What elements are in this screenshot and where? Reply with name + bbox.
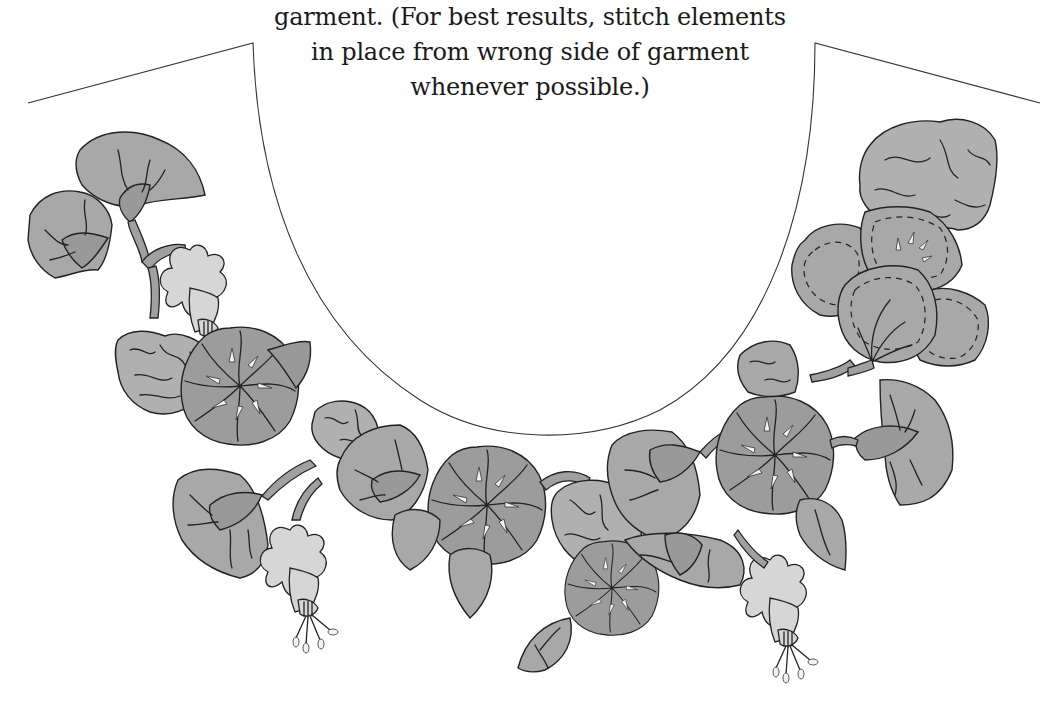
- fuchsia-bottom-left: [260, 525, 338, 653]
- neckline-applique-illustration: [0, 0, 1044, 708]
- morning-glory-right: [716, 396, 833, 514]
- fuchsia-bottom-right: [740, 555, 818, 683]
- morning-glory-center: [428, 446, 545, 564]
- leaf-center-left: [392, 510, 440, 570]
- leaf-cluster-top-right: [792, 119, 997, 376]
- morning-glory-left: [181, 327, 298, 445]
- ruffled-petal-middle-left: [292, 401, 428, 520]
- leaf-center-bottom: [449, 549, 492, 618]
